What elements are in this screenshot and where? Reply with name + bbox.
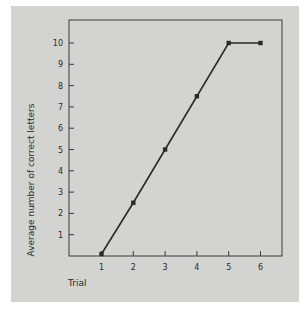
line-chart: 12345678910 123456 Trial Average number … xyxy=(0,0,308,313)
data-point xyxy=(227,41,231,45)
y-tick-label: 9 xyxy=(58,60,63,69)
x-tick-label: 3 xyxy=(163,263,168,272)
x-tick-label: 2 xyxy=(131,263,136,272)
y-tick-label: 4 xyxy=(58,167,63,176)
x-tick-label: 1 xyxy=(99,263,104,272)
data-point xyxy=(258,41,262,45)
data-point xyxy=(99,252,103,256)
x-tick-label: 4 xyxy=(194,263,199,272)
x-axis-title: Trial xyxy=(67,278,86,288)
data-points xyxy=(99,41,262,256)
y-tick-label: 6 xyxy=(58,124,63,133)
y-tick-label: 10 xyxy=(53,39,63,48)
x-axis: 123456 xyxy=(99,251,263,272)
y-tick-label: 2 xyxy=(58,209,63,218)
y-axis-title: Average number of correct letters xyxy=(26,103,36,256)
data-point xyxy=(131,201,135,205)
y-tick-label: 3 xyxy=(58,188,63,197)
data-point xyxy=(163,147,167,151)
plot-frame xyxy=(69,20,282,256)
y-tick-label: 8 xyxy=(58,82,63,91)
x-tick-label: 6 xyxy=(258,263,263,272)
data-line xyxy=(102,43,261,254)
y-tick-label: 1 xyxy=(58,231,63,240)
y-tick-label: 5 xyxy=(58,146,63,155)
y-tick-label: 7 xyxy=(58,103,63,112)
y-axis: 12345678910 xyxy=(53,39,74,240)
x-tick-label: 5 xyxy=(226,263,231,272)
data-point xyxy=(195,94,199,98)
